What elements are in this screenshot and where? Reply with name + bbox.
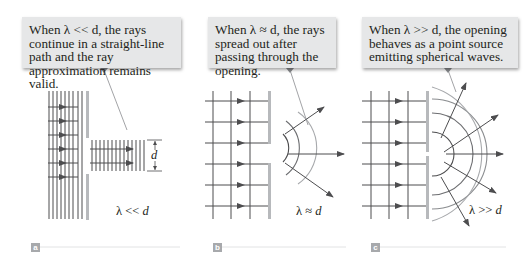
callout-panel-c: When λ >> d, the opening behaves as a po… xyxy=(362,17,518,68)
caption-a-d: d xyxy=(142,204,148,218)
panel-b-diagram xyxy=(205,68,344,219)
caption-b-d: d xyxy=(315,204,321,218)
callout-panel-b: When λ ≈ d, the rays spread out after pa… xyxy=(208,17,336,68)
caption-b-relation: λ ≈ xyxy=(296,204,315,218)
panel-label-b: b xyxy=(213,243,222,252)
caption-c-relation: λ >> xyxy=(469,203,495,217)
dimension-label-d: d xyxy=(151,148,157,163)
panel-label-c: c xyxy=(371,243,380,252)
panel-a-diagram xyxy=(48,68,162,220)
caption-panel-c: λ >> d xyxy=(469,203,502,218)
panel-label-a: a xyxy=(31,243,40,252)
caption-c-d: d xyxy=(495,203,501,217)
caption-panel-b: λ ≈ d xyxy=(296,204,321,219)
callout-panel-a: When λ << d, the rays continue in a stra… xyxy=(22,17,181,68)
caption-panel-a: λ << d xyxy=(116,204,149,219)
caption-a-relation: λ << xyxy=(116,204,142,218)
